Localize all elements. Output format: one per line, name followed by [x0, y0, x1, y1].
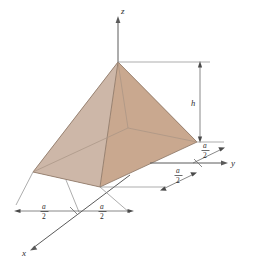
height-label: h — [191, 98, 195, 108]
x-axis-label: x — [21, 248, 26, 258]
bottom-ext-left — [16, 172, 33, 205]
right-upper-arrow — [218, 147, 225, 151]
right-upper-fraction: a 2 — [202, 141, 210, 160]
right-lower-fraction: a 2 — [175, 166, 183, 185]
bottom-right-denominator: 2 — [100, 212, 104, 221]
x-axis-arrow — [30, 246, 37, 251]
bottom-ext-right — [100, 187, 130, 213]
right-upper-numerator: a — [203, 141, 207, 150]
right-upper-dim-line — [193, 149, 222, 163]
right-upper-denominator: 2 — [203, 151, 207, 160]
bottom-arrow-left — [14, 209, 21, 213]
bottom-ext-mid — [66, 180, 79, 212]
figure-container: z y x h a 2 a — [0, 0, 262, 271]
bottom-left-denominator: 2 — [42, 212, 46, 221]
right-lower-numerator: a — [176, 166, 180, 175]
z-axis-arrow — [116, 16, 121, 23]
bottom-arrow-right — [128, 209, 135, 213]
bottom-left-fraction: a 2 — [41, 202, 49, 221]
bottom-left-numerator: a — [42, 202, 46, 211]
z-axis-label: z — [120, 6, 125, 16]
right-lower-denominator: 2 — [176, 176, 180, 185]
pyramid-diagram: z y x h a 2 a — [0, 0, 262, 271]
bottom-right-numerator: a — [100, 202, 104, 211]
y-axis-arrow — [221, 161, 228, 166]
right-lower-arrow-right — [190, 172, 197, 176]
bottom-right-fraction: a 2 — [99, 202, 107, 221]
y-axis-label: y — [230, 158, 235, 168]
